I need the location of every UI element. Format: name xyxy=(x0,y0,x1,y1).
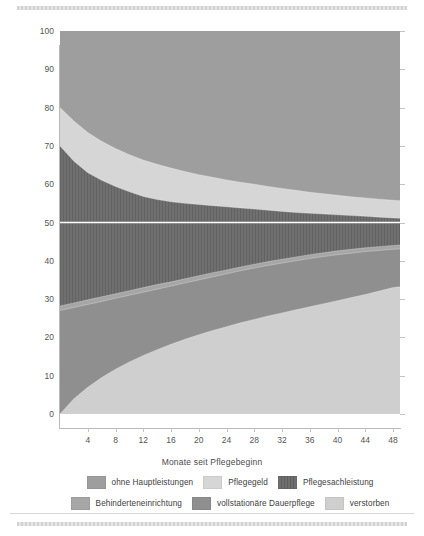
y-axis-tick-label: 30 xyxy=(45,295,54,304)
decorative-scan-bar-top xyxy=(17,6,407,10)
legend-swatch-icon xyxy=(87,476,106,489)
decorative-scan-bar-bottom xyxy=(17,522,407,526)
legend-swatch-icon xyxy=(71,497,90,510)
x-axis-tick-label: 20 xyxy=(194,435,203,445)
legend-label: vollstationäre Dauerpflege xyxy=(217,499,315,508)
legend-swatch-icon xyxy=(203,476,222,489)
y-axis-tick-label: 100 xyxy=(40,27,54,36)
stacked-area-plot xyxy=(60,31,400,414)
legend-item[interactable]: Pflegegeld xyxy=(203,476,268,489)
legend-row-1: ohne HauptleistungenPflegegeldPflegesach… xyxy=(60,476,400,489)
legend-label: verstorben xyxy=(350,499,390,508)
legend-item[interactable]: Behinderteneinrichtung xyxy=(71,497,182,510)
x-axis-tick-label: 16 xyxy=(166,435,175,445)
chart-legend: ohne HauptleistungenPflegegeldPflegesach… xyxy=(60,476,400,518)
x-axis-tick-label: 8 xyxy=(113,435,118,445)
legend-swatch-icon xyxy=(325,497,344,510)
y-axis-tick-mark xyxy=(400,299,405,300)
legend-row-2: Behinderteneinrichtungvollstationäre Dau… xyxy=(60,497,400,510)
divider-line xyxy=(10,513,414,514)
y-axis-tick-mark xyxy=(400,146,405,147)
x-axis-tick-label: 36 xyxy=(305,435,314,445)
x-axis-tick-mark xyxy=(365,428,366,432)
y-axis-tick-mark xyxy=(400,414,405,415)
x-axis-tick-label: 32 xyxy=(277,435,286,445)
y-axis-tick-mark xyxy=(400,337,405,338)
x-axis-tick-mark xyxy=(254,428,255,432)
y-axis-tick-label: 20 xyxy=(45,333,54,342)
x-axis-tick-label: 4 xyxy=(85,435,90,445)
x-axis-tick-mark xyxy=(88,428,89,432)
x-axis-tick-label: 24 xyxy=(222,435,231,445)
y-axis-title: Anteil in Prozent xyxy=(0,132,1,194)
y-axis-tick-mark xyxy=(400,261,405,262)
y-axis-tick-label: 50 xyxy=(45,218,54,227)
y-axis-tick-mark xyxy=(400,31,405,32)
y-axis-tick-label: 60 xyxy=(45,180,54,189)
y-axis-tick-label: 70 xyxy=(45,142,54,151)
x-axis-tick-label: 40 xyxy=(333,435,342,445)
x-axis-tick-label: 28 xyxy=(250,435,259,445)
x-axis-line xyxy=(59,428,401,429)
y-axis-tick-mark xyxy=(400,376,405,377)
x-axis-tick-mark xyxy=(393,428,394,432)
y-axis-tick-mark xyxy=(400,69,405,70)
y-axis-tick-label: 90 xyxy=(45,65,54,74)
x-axis-tick-mark xyxy=(338,428,339,432)
legend-swatch-icon xyxy=(192,497,211,510)
x-axis-tick-label: 12 xyxy=(139,435,148,445)
legend-item[interactable]: ohne Hauptleistungen xyxy=(87,476,194,489)
y-axis-tick-label: 0 xyxy=(49,410,54,419)
y-axis-tick-mark xyxy=(400,108,405,109)
x-axis-tick-mark xyxy=(310,428,311,432)
stacked-area-svg xyxy=(60,31,400,414)
x-axis-tick-mark xyxy=(199,428,200,432)
x-axis-tick-mark xyxy=(282,428,283,432)
y-axis-tick-mark xyxy=(400,184,405,185)
x-axis-tick-mark xyxy=(171,428,172,432)
chart-figure: Anteil in Prozent 0102030405060708090100… xyxy=(0,14,424,510)
y-axis-tick-label: 40 xyxy=(45,257,54,266)
legend-label: ohne Hauptleistungen xyxy=(112,478,194,487)
x-axis-tick-mark xyxy=(116,428,117,432)
legend-label: Behinderteneinrichtung xyxy=(96,499,182,508)
y-axis-tick-label: 80 xyxy=(45,103,54,112)
x-axis-tick-mark xyxy=(143,428,144,432)
legend-label: Pflegesachleistung xyxy=(303,478,374,487)
x-axis-tick-label: 44 xyxy=(361,435,370,445)
plot-area xyxy=(60,31,400,414)
y-axis-tick-mark xyxy=(400,223,405,224)
y-axis-tick-label: 10 xyxy=(45,371,54,380)
x-axis-title: Monate seit Pflegebeginn xyxy=(0,457,424,467)
legend-item[interactable]: Pflegesachleistung xyxy=(278,476,374,489)
x-axis-tick-label: 48 xyxy=(388,435,397,445)
legend-label: Pflegegeld xyxy=(228,478,268,487)
legend-item[interactable]: vollstationäre Dauerpflege xyxy=(192,497,315,510)
x-axis-tick-mark xyxy=(227,428,228,432)
y-axis-tick-labels: 0102030405060708090100 xyxy=(22,14,54,510)
legend-swatch-icon xyxy=(278,476,297,489)
legend-item[interactable]: verstorben xyxy=(325,497,390,510)
